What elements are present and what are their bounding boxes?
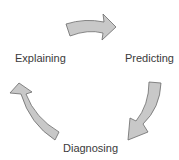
cycle-diagram: Explaining Predicting Diagnosing: [0, 0, 179, 160]
arrows-layer: [0, 0, 179, 160]
arrow-predicting-to-diagnosing-icon: [128, 82, 161, 140]
node-explaining-label: Explaining: [15, 53, 66, 64]
arrow-diagnosing-to-explaining-icon: [10, 83, 59, 140]
node-diagnosing-label: Diagnosing: [63, 143, 118, 154]
arrow-explaining-to-predicting-icon: [66, 14, 116, 40]
node-predicting-label: Predicting: [125, 53, 174, 64]
